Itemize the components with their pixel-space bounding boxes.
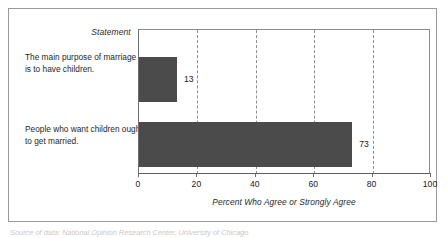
x-axis-title: Percent Who Agree or Strongly Agree bbox=[138, 197, 430, 207]
x-tick-0 bbox=[138, 173, 139, 177]
bar-value-label-0: 13 bbox=[184, 74, 194, 84]
bar-1 bbox=[139, 122, 352, 167]
x-tick-label-100: 100 bbox=[423, 179, 437, 189]
x-tick-label-80: 80 bbox=[367, 179, 377, 189]
plot-area: 1373 bbox=[138, 29, 430, 174]
chart-figure-frame: Statement The main purpose of marriage i… bbox=[8, 8, 437, 222]
x-tick-label-0: 0 bbox=[136, 179, 141, 189]
bar-value-label-1: 73 bbox=[359, 139, 369, 149]
x-axis-line bbox=[138, 173, 430, 174]
category-label-marriage-purpose: The main purpose of marriage is to have … bbox=[25, 52, 143, 75]
x-tick-label-20: 20 bbox=[192, 179, 202, 189]
x-tick-label-60: 60 bbox=[308, 179, 318, 189]
x-tick-60 bbox=[313, 173, 314, 177]
x-tick-40 bbox=[255, 173, 256, 177]
x-tick-label-40: 40 bbox=[250, 179, 260, 189]
x-tick-20 bbox=[196, 173, 197, 177]
source-note: Source of data: National Opinion Researc… bbox=[10, 228, 310, 238]
gridline-80 bbox=[373, 30, 374, 174]
category-label-want-children: People who want children ought to get ma… bbox=[25, 124, 143, 147]
bar-0 bbox=[139, 57, 177, 102]
x-tick-100 bbox=[430, 173, 431, 177]
x-tick-80 bbox=[372, 173, 373, 177]
